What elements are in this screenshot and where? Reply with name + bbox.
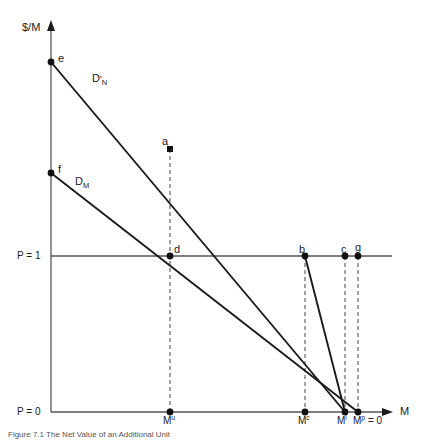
- curve-dn-sub: N: [102, 78, 107, 87]
- demand-curve-d-m: [51, 173, 358, 412]
- y-tick-p0-value: 0: [35, 406, 41, 417]
- curve-dm-base: D: [75, 175, 83, 187]
- point-dot-e: [48, 59, 55, 66]
- point-label-e: e: [58, 52, 64, 64]
- dashed-guide-lines: [170, 149, 358, 412]
- y-tick-p1-value: 1: [35, 250, 41, 261]
- x-axis-title: M: [400, 405, 409, 417]
- point-dot-d: [167, 253, 174, 260]
- y-axis-arrowhead: [47, 20, 55, 31]
- curve-label-d-prime-n: D'N: [92, 72, 107, 84]
- y-tick-p1-text: P =: [17, 250, 35, 261]
- x-tick-Mi-sup: i: [345, 414, 347, 421]
- point-label-b: b: [299, 243, 305, 255]
- point-label-c: c: [341, 243, 347, 255]
- point-dot-g: [355, 253, 362, 260]
- point-label-d: d: [174, 243, 180, 255]
- y-axis-title: $/M: [22, 21, 40, 33]
- curve-dn-base: D: [92, 72, 100, 84]
- x-tick-label-Mu: Mu: [163, 415, 175, 426]
- point-markers: [48, 59, 362, 416]
- x-tick-Mp-suffix: = 0: [365, 415, 382, 426]
- x-tick-Mc-sup: c: [306, 414, 309, 421]
- x-axis-arrowhead: [382, 408, 393, 416]
- economics-demand-diagram: [0, 0, 422, 443]
- x-tick-label-Mp: Mp = 0: [353, 415, 382, 426]
- demand-curve-d-prime-n: [51, 62, 345, 412]
- y-tick-label-p1: P = 1: [17, 250, 40, 261]
- point-label-g: g: [355, 241, 361, 253]
- figure-caption: Figure 7.1 The Net Value of an Additiona…: [8, 430, 170, 439]
- point-label-a: a: [162, 135, 168, 147]
- x-tick-label-Mc: Mc: [298, 415, 310, 426]
- point-dot-f: [48, 170, 55, 177]
- x-tick-label-Mi: Mi: [337, 415, 347, 426]
- curve-dm-sub: M: [83, 181, 89, 190]
- y-tick-label-p0: P = 0: [17, 406, 40, 417]
- point-label-f: f: [58, 163, 61, 175]
- curve-label-d-m: DM: [75, 175, 89, 187]
- x-tick-Mu-sup: u: [171, 414, 175, 421]
- y-tick-p0-text: P =: [17, 406, 35, 417]
